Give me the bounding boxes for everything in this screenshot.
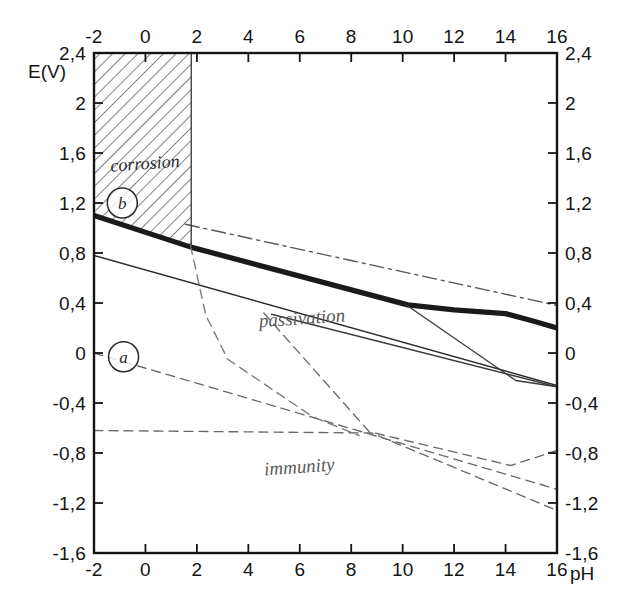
y-tick-left-0: 0 bbox=[75, 343, 86, 364]
y-tick-left--1,2: -1,2 bbox=[52, 493, 86, 514]
curve-descending-dashed-to-corner bbox=[264, 313, 557, 466]
y-axis-labels-right: 2,421,61,20,80,40-0,4-0,8-1,2-1,6 bbox=[565, 43, 599, 564]
y-tick-left-1,6: 1,6 bbox=[59, 143, 86, 164]
y-tick-left--0,8: -0,8 bbox=[52, 443, 86, 464]
x-tick-top-2: 2 bbox=[191, 26, 202, 47]
x-axis-labels-bottom: -20246810121416 bbox=[85, 559, 567, 580]
x-tick-bottom-10: 10 bbox=[392, 559, 414, 580]
x-axis-title: pH bbox=[570, 563, 594, 584]
y-tick-right-0,8: 0,8 bbox=[565, 243, 592, 264]
y-tick-right--0,8: -0,8 bbox=[565, 443, 599, 464]
line-b-marker: b bbox=[107, 188, 137, 218]
y-tick-left-2: 2 bbox=[75, 93, 86, 114]
x-tick-bottom-0: 0 bbox=[140, 559, 151, 580]
y-tick-left-1,2: 1,2 bbox=[59, 193, 86, 214]
pourbaix-diagram-figure: -20246810121416 -20246810121416 2,421,61… bbox=[0, 0, 625, 611]
y-tick-right-2: 2 bbox=[565, 93, 576, 114]
x-tick-bottom-12: 12 bbox=[443, 559, 465, 580]
x-tick-top-0: 0 bbox=[140, 26, 151, 47]
y-tick-right--0,4: -0,4 bbox=[565, 393, 599, 414]
y-tick-left-0,4: 0,4 bbox=[59, 293, 86, 314]
x-tick-top-6: 6 bbox=[294, 26, 305, 47]
region-label-passivation: passivation bbox=[256, 304, 346, 331]
x-tick-top-4: 4 bbox=[243, 26, 254, 47]
x-tick-bottom-14: 14 bbox=[495, 559, 517, 580]
y-tick-right-1,6: 1,6 bbox=[565, 143, 592, 164]
x-tick-top--2: -2 bbox=[85, 26, 102, 47]
y-tick-left--0,4: -0,4 bbox=[52, 393, 86, 414]
y-tick-right--1,2: -1,2 bbox=[565, 493, 599, 514]
y-tick-right-2,4: 2,4 bbox=[565, 43, 592, 64]
y-axis-title: E(V) bbox=[28, 61, 66, 82]
y-tick-right-1,2: 1,2 bbox=[565, 193, 592, 214]
x-tick-top-8: 8 bbox=[346, 26, 357, 47]
x-axis-labels-top: -20246810121416 bbox=[85, 26, 567, 47]
x-tick-top-14: 14 bbox=[495, 26, 517, 47]
x-tick-bottom--2: -2 bbox=[85, 559, 102, 580]
y-tick-right-0: 0 bbox=[565, 343, 576, 364]
curve-vertical-dashed-drop bbox=[190, 246, 358, 436]
diagram-canvas: -20246810121416 -20246810121416 2,421,61… bbox=[0, 0, 625, 611]
y-tick-right--1,6: -1,6 bbox=[565, 543, 599, 564]
region-label-immunity: immunity bbox=[263, 454, 336, 480]
x-tick-bottom-2: 2 bbox=[191, 559, 202, 580]
line-a-marker: a bbox=[109, 342, 139, 372]
x-tick-bottom-6: 6 bbox=[294, 559, 305, 580]
x-tick-bottom-4: 4 bbox=[243, 559, 254, 580]
y-tick-right-0,4: 0,4 bbox=[565, 293, 592, 314]
line-a-marker-text: a bbox=[119, 348, 128, 367]
y-axis-labels-left: 2,421,61,20,80,40-0,4-0,8-1,2-1,6 bbox=[52, 43, 86, 564]
y-tick-left-0,8: 0,8 bbox=[59, 243, 86, 264]
x-tick-bottom-8: 8 bbox=[346, 559, 357, 580]
x-tick-top-10: 10 bbox=[392, 26, 414, 47]
curve-steep-solid-descender bbox=[405, 304, 557, 387]
y-tick-left--1,6: -1,6 bbox=[52, 543, 86, 564]
line-b-marker-text: b bbox=[118, 194, 127, 213]
x-tick-top-12: 12 bbox=[443, 26, 465, 47]
